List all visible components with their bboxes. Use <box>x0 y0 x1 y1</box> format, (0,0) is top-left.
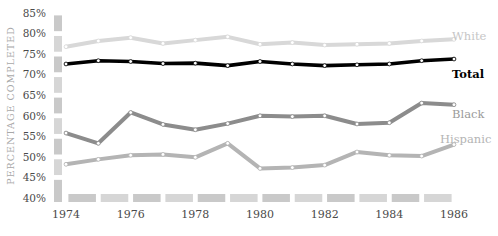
data-point-total[interactable] <box>193 61 197 65</box>
data-point-black[interactable] <box>452 103 456 107</box>
data-point-hispanic[interactable] <box>129 153 133 157</box>
data-point-white[interactable] <box>64 45 68 49</box>
data-point-white[interactable] <box>323 43 327 47</box>
y-axis-tick-label: 40% <box>23 192 46 204</box>
data-point-total[interactable] <box>161 62 165 66</box>
series-label-total: Total <box>452 67 485 81</box>
data-point-hispanic[interactable] <box>387 153 391 157</box>
data-point-white[interactable] <box>226 35 230 39</box>
x-axis-tick-label: 1976 <box>117 208 145 221</box>
y-axis-tick-label: 65% <box>23 89 46 101</box>
data-point-total[interactable] <box>355 63 359 67</box>
axis-corner-joint <box>54 194 62 202</box>
x-axis-segment <box>68 194 96 202</box>
y-axis-tick-label: 70% <box>23 68 46 80</box>
y-axis-segment <box>54 36 62 52</box>
data-point-total[interactable] <box>290 62 294 66</box>
x-axis-tick-label: 1978 <box>181 208 209 221</box>
series-label-hispanic: Hispanic <box>440 132 491 146</box>
data-point-black[interactable] <box>258 114 262 118</box>
data-point-black[interactable] <box>323 114 327 118</box>
x-axis-segment <box>198 194 226 202</box>
y-axis-tick-label: 50% <box>23 151 46 163</box>
x-axis-tick-label: 1980 <box>246 208 274 221</box>
data-point-black[interactable] <box>387 121 391 125</box>
x-axis-segment <box>133 194 161 202</box>
y-axis-segment <box>54 98 62 114</box>
data-point-hispanic[interactable] <box>193 155 197 159</box>
y-axis-segment <box>54 159 62 175</box>
data-point-black[interactable] <box>355 122 359 126</box>
data-point-white[interactable] <box>161 42 165 46</box>
y-axis-tick-label: 60% <box>23 110 46 122</box>
x-axis-segment <box>392 194 420 202</box>
line-chart: 40%45%50%55%60%65%70%75%80%85%PERCENTAGE… <box>0 0 498 236</box>
x-axis-tick-label: 1974 <box>52 208 80 221</box>
y-axis-tick-label: 45% <box>23 171 46 183</box>
data-point-total[interactable] <box>323 64 327 68</box>
y-axis-segment <box>54 139 62 155</box>
data-point-white[interactable] <box>420 39 424 43</box>
data-point-black[interactable] <box>129 111 133 115</box>
data-point-white[interactable] <box>290 41 294 45</box>
x-axis-segment <box>295 194 323 202</box>
data-point-hispanic[interactable] <box>64 162 68 166</box>
x-axis-segment <box>165 194 193 202</box>
data-point-black[interactable] <box>64 131 68 135</box>
x-axis-tick-label: 1982 <box>311 208 339 221</box>
series-line-hispanic <box>66 143 454 168</box>
data-point-total[interactable] <box>420 59 424 63</box>
series-label-black: Black <box>452 107 485 121</box>
y-axis-tick-label: 55% <box>23 130 46 142</box>
x-axis-segment <box>359 194 387 202</box>
data-point-white[interactable] <box>193 38 197 42</box>
series-line-black <box>66 103 454 143</box>
series-label-white: White <box>452 29 487 43</box>
y-axis-segment <box>54 57 62 73</box>
y-axis-tick-label: 80% <box>23 27 46 39</box>
y-axis-segment <box>54 15 62 31</box>
data-point-hispanic[interactable] <box>258 167 262 171</box>
data-point-black[interactable] <box>420 101 424 105</box>
y-axis-title: PERCENTAGE COMPLETED <box>5 26 16 185</box>
data-point-hispanic[interactable] <box>96 157 100 161</box>
data-point-hispanic[interactable] <box>323 163 327 167</box>
data-point-white[interactable] <box>387 42 391 46</box>
data-point-black[interactable] <box>290 115 294 119</box>
y-axis-segment <box>54 77 62 93</box>
y-axis-segment <box>54 180 62 196</box>
y-axis-segment <box>54 118 62 134</box>
data-point-hispanic[interactable] <box>420 154 424 158</box>
data-point-hispanic[interactable] <box>355 150 359 154</box>
chart-container: 40%45%50%55%60%65%70%75%80%85%PERCENTAGE… <box>0 0 498 236</box>
data-point-hispanic[interactable] <box>161 153 165 157</box>
x-axis-segment <box>262 194 290 202</box>
y-axis-tick-label: 85% <box>23 7 46 19</box>
data-point-hispanic[interactable] <box>290 166 294 170</box>
data-point-white[interactable] <box>129 36 133 40</box>
x-axis-segment <box>101 194 129 202</box>
x-axis-tick-label: 1984 <box>375 208 403 221</box>
data-point-total[interactable] <box>96 59 100 63</box>
x-axis-segment <box>327 194 355 202</box>
data-point-total[interactable] <box>226 64 230 68</box>
data-point-black[interactable] <box>193 128 197 132</box>
x-axis-segment <box>230 194 258 202</box>
data-point-total[interactable] <box>452 57 456 61</box>
x-axis-tick-label: 1986 <box>440 208 468 221</box>
data-point-black[interactable] <box>96 141 100 145</box>
data-point-white[interactable] <box>96 39 100 43</box>
data-point-white[interactable] <box>355 42 359 46</box>
data-point-total[interactable] <box>64 62 68 66</box>
data-point-total[interactable] <box>129 60 133 64</box>
data-point-total[interactable] <box>258 60 262 64</box>
data-point-hispanic[interactable] <box>226 141 230 145</box>
data-point-black[interactable] <box>226 122 230 126</box>
data-point-black[interactable] <box>161 123 165 127</box>
y-axis-tick-label: 75% <box>23 48 46 60</box>
data-point-total[interactable] <box>387 62 391 66</box>
data-point-white[interactable] <box>258 42 262 46</box>
x-axis-segment <box>424 194 452 202</box>
